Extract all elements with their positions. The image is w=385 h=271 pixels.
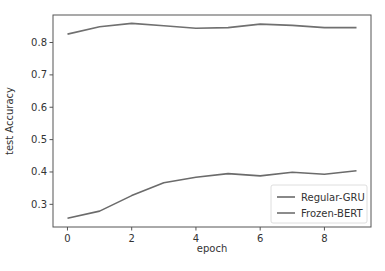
y-tick-label: 0.6 — [31, 102, 47, 113]
legend-label: Regular-GRU — [301, 192, 365, 203]
x-axis-label: epoch — [197, 243, 227, 254]
legend-label: Frozen-BERT — [301, 208, 363, 219]
x-tick-label: 0 — [64, 233, 70, 244]
series-line-frozen-bert — [68, 23, 357, 34]
x-tick-label: 8 — [321, 233, 327, 244]
y-axis: 0.30.40.50.60.70.8 — [31, 37, 53, 210]
y-tick-label: 0.5 — [31, 134, 47, 145]
y-axis-label: test Accuracy — [4, 87, 15, 155]
y-tick-label: 0.4 — [31, 166, 47, 177]
y-tick-label: 0.7 — [31, 69, 47, 80]
line-chart: 0.30.40.50.60.70.8 02468 epoch test Accu… — [0, 0, 385, 271]
x-tick-label: 2 — [129, 233, 135, 244]
y-tick-label: 0.3 — [31, 199, 47, 210]
legend: Regular-GRUFrozen-BERT — [271, 185, 367, 223]
x-axis: 02468 — [64, 227, 327, 244]
y-tick-label: 0.8 — [31, 37, 47, 48]
x-tick-label: 6 — [257, 233, 263, 244]
